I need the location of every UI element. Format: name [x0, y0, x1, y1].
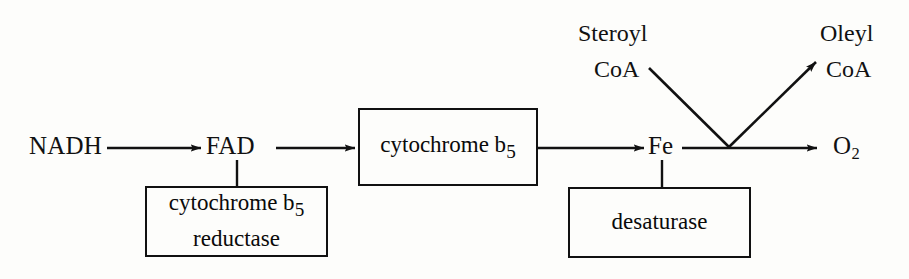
enzyme-box-cytochrome-b5-label: cytochrome b5 — [380, 129, 515, 165]
enzyme-box-desaturase-label: desaturase — [612, 206, 708, 239]
node-label-o2-text: O — [833, 132, 851, 159]
oleyl-coa-line-1: Oleyl — [820, 21, 873, 45]
enzyme-box-desaturase: desaturase — [568, 187, 751, 258]
node-label-nadh: NADH — [29, 133, 102, 158]
cytochrome-b5-reductase-text: cytochrome b — [169, 190, 295, 215]
pathway-diagram: NADH FAD Fe O2 Steroyl CoA Oleyl CoA cyt… — [0, 0, 909, 279]
node-label-steroyl-coa: Steroyl CoA — [578, 21, 647, 81]
node-label-o2: O2 — [833, 133, 860, 162]
steroyl-coa-line-1: Steroyl — [578, 21, 647, 45]
steroyl-coa-line-2: CoA — [594, 57, 647, 81]
node-label-o2-subscript: 2 — [851, 144, 860, 163]
node-label-fe: Fe — [648, 133, 673, 158]
cytochrome-b5-reductase-subscript: 5 — [295, 199, 305, 220]
cytochrome-b5-reductase-line-1: cytochrome b5 — [169, 187, 304, 223]
enzyme-box-cytochrome-b5: cytochrome b5 — [358, 108, 538, 186]
node-label-oleyl-coa: Oleyl CoA — [820, 21, 873, 81]
cytochrome-b5-subscript: 5 — [506, 141, 516, 162]
node-label-fad: FAD — [206, 133, 255, 158]
oleyl-coa-line-2: CoA — [826, 57, 873, 81]
cytochrome-b5-reductase-line-2: reductase — [193, 223, 280, 256]
enzyme-box-cytochrome-b5-reductase: cytochrome b5 reductase — [145, 186, 328, 257]
arrow-junction-to-oleyl-coa — [729, 62, 816, 147]
cytochrome-b5-text: cytochrome b — [380, 132, 506, 157]
